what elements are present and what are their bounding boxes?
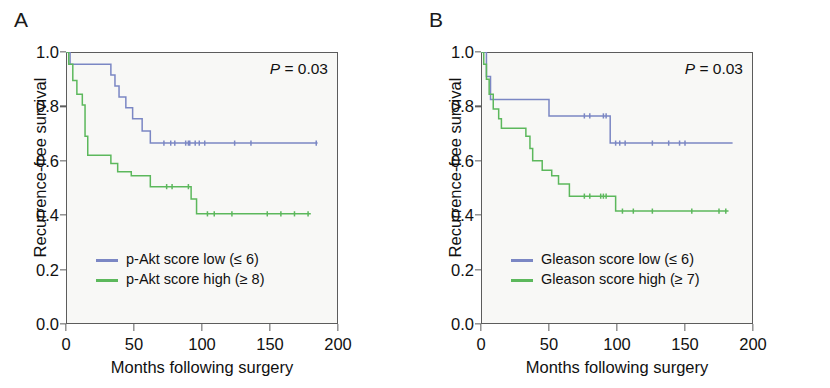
panel-b-xtick-1: 0: [476, 335, 485, 354]
legend-line-swatch-low: [96, 259, 118, 262]
panel-a: A Recurrence-free survival 1.0 0.8 0.6 0…: [0, 0, 415, 388]
legend-label-low: Gleason score low (≤ 6): [541, 252, 694, 268]
panel-a-pvalue-value: = 0.03: [280, 60, 328, 77]
panel-b-pvalue: P = 0.03: [685, 60, 743, 78]
legend-item: p-Akt score high (≥ 8): [96, 272, 265, 288]
panel-a-xtick-5: 200: [324, 335, 352, 354]
panel-b-ytick-5: 0.2: [451, 260, 474, 279]
panel-b-pvalue-symbol: P: [685, 60, 695, 77]
panel-b-xtick-2: 50: [540, 335, 558, 354]
panel-a-ytick-2: 0.8: [36, 97, 59, 116]
legend-label-high: p-Akt score high (≥ 8): [126, 272, 265, 288]
panel-b-xtick-3: 100: [603, 335, 631, 354]
panel-b-pvalue-value: = 0.03: [695, 60, 743, 77]
legend-line-swatch-high: [511, 279, 533, 282]
panel-a-ytick-4: 0.4: [36, 206, 59, 225]
panel-b-ytick-2: 0.8: [451, 97, 474, 116]
panel-b: B Recurrence-free survival 1.0 0.8 0.6 0…: [415, 0, 830, 388]
panel-b-plot-area: 1.0 0.8 0.6 0.4 0.2 0.0 0 50 100 150 200…: [481, 52, 753, 324]
panel-a-xtick-3: 100: [188, 335, 216, 354]
panel-b-xtick-4: 150: [671, 335, 699, 354]
panel-a-ytick-5: 0.2: [36, 260, 59, 279]
legend-label-high: Gleason score high (≥ 7): [541, 272, 700, 288]
panel-b-xtick-5: 200: [739, 335, 767, 354]
panel-b-x-axis-title: Months following surgery: [481, 358, 753, 377]
panel-b-ytick-3: 0.6: [451, 151, 474, 170]
panel-a-legend: p-Akt score low (≤ 6) p-Akt score high (…: [96, 252, 265, 288]
panel-b-ytick-1: 1.0: [451, 43, 474, 62]
legend-line-swatch-high: [96, 279, 118, 282]
panel-a-ytick-6: 0.0: [36, 315, 59, 334]
panel-b-letter: B: [429, 8, 444, 32]
legend-item: Gleason score low (≤ 6): [511, 252, 700, 268]
panel-a-x-axis-title: Months following surgery: [66, 358, 338, 377]
panel-a-plot-area: 1.0 0.8 0.6 0.4 0.2 0.0 0 50 100 150 200: [66, 52, 338, 324]
legend-line-swatch-low: [511, 259, 533, 262]
panel-a-pvalue: P = 0.03: [270, 60, 328, 78]
panel-b-ytick-6: 0.0: [451, 315, 474, 334]
panel-a-xtick-1: 0: [61, 335, 70, 354]
panel-a-ytick-1: 1.0: [36, 43, 59, 62]
panel-a-ytick-3: 0.6: [36, 151, 59, 170]
panel-a-xtick-4: 150: [256, 335, 284, 354]
panel-b-ytick-4: 0.4: [451, 206, 474, 225]
kaplan-meier-figure: A Recurrence-free survival 1.0 0.8 0.6 0…: [0, 0, 830, 388]
legend-item: Gleason score high (≥ 7): [511, 272, 700, 288]
legend-label-low: p-Akt score low (≤ 6): [126, 252, 259, 268]
panel-a-xtick-2: 50: [125, 335, 143, 354]
legend-item: p-Akt score low (≤ 6): [96, 252, 265, 268]
panel-b-legend: Gleason score low (≤ 6) Gleason score hi…: [511, 252, 700, 288]
panel-a-pvalue-symbol: P: [270, 60, 280, 77]
panel-a-letter: A: [14, 8, 29, 32]
